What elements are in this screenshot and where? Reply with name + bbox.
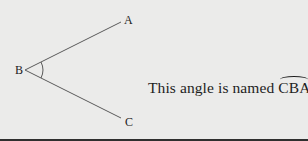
ray-bc bbox=[25, 70, 121, 118]
label-b: B bbox=[15, 63, 23, 77]
angle-diagram: A B C bbox=[0, 0, 308, 141]
caption-prefix: This angle is named bbox=[148, 79, 278, 96]
ray-ba bbox=[25, 22, 121, 70]
label-c: C bbox=[125, 115, 133, 129]
bottom-edge bbox=[0, 139, 308, 141]
label-a: A bbox=[124, 13, 133, 27]
angle-name: CBA bbox=[278, 79, 308, 97]
angle-arc bbox=[41, 62, 43, 78]
caption-text: This angle is named CBA. bbox=[148, 79, 308, 97]
